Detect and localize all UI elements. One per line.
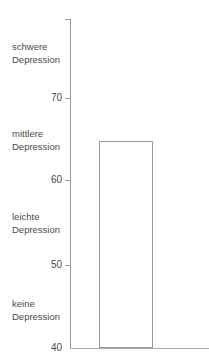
severity-label-mittlere-depression: mittlere Depression xyxy=(12,127,70,153)
x-axis-baseline xyxy=(70,348,209,349)
y-tick-label-50: 50 xyxy=(12,260,62,270)
depression-scale-chart: 70 60 50 40 schwere Depression mittlere … xyxy=(0,0,209,359)
y-tick-mark-60 xyxy=(65,180,70,181)
y-tick-label-40: 40 xyxy=(12,343,62,353)
y-tick-mark-70 xyxy=(65,98,70,99)
bar-series-0 xyxy=(99,141,153,348)
severity-label-schwere-depression: schwere Depression xyxy=(12,40,70,66)
y-tick-label-70: 70 xyxy=(12,93,62,103)
y-axis-top-cap-tick xyxy=(65,19,70,20)
y-tick-mark-50 xyxy=(65,265,70,266)
severity-label-leichte-depression: leichte Depression xyxy=(12,210,70,236)
y-tick-label-60: 60 xyxy=(12,175,62,185)
y-axis-line xyxy=(70,19,71,349)
severity-label-keine-depression: keine Depression xyxy=(12,297,70,323)
